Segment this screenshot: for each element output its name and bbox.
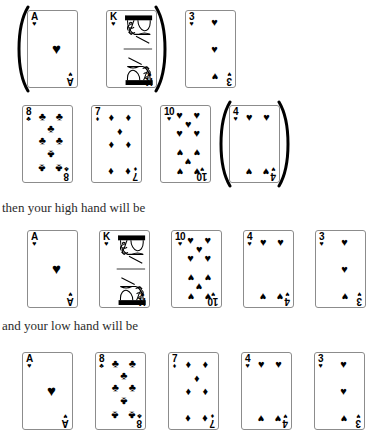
pip-diamonds-icon: ♦: [108, 112, 114, 123]
card-suit-hearts-icon: ♥: [319, 241, 323, 246]
pip-hearts-icon: ♥: [187, 235, 194, 246]
pip-hearts-icon: ♥: [211, 70, 218, 81]
pip-hearts-icon: ♥: [176, 110, 183, 121]
pip-hearts-icon: ♥: [193, 147, 200, 158]
card-pip-field: ♣♣♣♣♣♣♣♣: [35, 109, 68, 179]
card-slot-three-of-hearts[interactable]: 3♥3♥♥♥♥: [315, 230, 366, 308]
pip-hearts-icon: ♥: [340, 386, 347, 397]
pip-diamonds-icon: ♦: [203, 359, 209, 370]
pip-clubs-icon: ♣: [47, 122, 54, 133]
card-slot-eight-of-clubs[interactable]: 8♣8♣♣♣♣♣♣♣♣♣: [95, 352, 146, 430]
playing-card-king-of-hearts[interactable]: K♥K♥: [99, 230, 150, 308]
pip-diamonds-icon: ♦: [203, 386, 209, 397]
card-pip-field: ♥♥♥♥♥♥♥♥♥♥: [184, 234, 217, 304]
playing-card-four-of-hearts[interactable]: 4♥4♥♥♥♥♥: [229, 105, 280, 183]
pip-diamonds-icon: ♦: [185, 359, 191, 370]
pip-hearts-icon: ♥: [204, 290, 211, 301]
playing-card-seven-of-diamonds[interactable]: 7♦7♦♦♦♦♦♦♦♦: [91, 105, 142, 183]
card-index-tl: 3♥: [318, 355, 323, 368]
pip-diamonds-icon: ♦: [185, 386, 191, 397]
playing-card-eight-of-clubs[interactable]: 8♣8♣♣♣♣♣♣♣♣♣: [22, 105, 73, 183]
card-suit-hearts-icon: ♥: [247, 241, 251, 246]
pip-clubs-icon: ♣: [112, 381, 119, 392]
pip-hearts-icon: ♥: [277, 290, 284, 301]
playing-card-ten-of-hearts[interactable]: 10♥10♥♥♥♥♥♥♥♥♥♥♥: [171, 230, 222, 308]
pip-hearts-icon: ♥: [176, 147, 183, 158]
card-suit-hearts-icon: ♥: [104, 241, 108, 246]
caption-low-hand: and your low hand will be: [2, 318, 138, 334]
pip-clubs-icon: ♣: [120, 395, 127, 406]
caption-high-hand: then your high hand will be: [2, 200, 145, 216]
pip-hearts-icon: ♥: [185, 119, 192, 130]
card-slot-four-of-hearts[interactable]: 4♥4♥♥♥♥♥: [243, 230, 294, 308]
card-pip-field: ♥♥♥: [198, 14, 231, 84]
card-slot-four-of-hearts[interactable]: 4♥4♥♥♥♥♥: [229, 105, 280, 183]
pip-diamonds-icon: ♦: [108, 139, 114, 150]
card-slot-ten-of-hearts[interactable]: 10♥10♥♥♥♥♥♥♥♥♥♥♥: [160, 105, 211, 183]
card-suit-diamonds-icon: ♦: [96, 116, 100, 121]
playing-card-ace-of-hearts[interactable]: A♥A♥♥: [27, 230, 78, 308]
pip-clubs-icon: ♣: [39, 134, 46, 145]
pip-diamonds-icon: ♦: [108, 165, 114, 176]
pip-hearts-icon: ♥: [263, 165, 270, 176]
card-index-tl: 8♣: [99, 355, 104, 368]
card-suit-hearts-icon: ♥: [233, 116, 237, 121]
card-slot-three-of-hearts[interactable]: 3♥3♥♥♥♥: [185, 10, 236, 88]
card-slot-four-of-hearts[interactable]: 4♥4♥♥♥♥♥: [241, 352, 292, 430]
card-slot-ace-of-hearts[interactable]: A♥A♥♥: [27, 10, 78, 88]
card-index-tl: 8♣: [26, 108, 31, 121]
card-index-tl: 7♦: [172, 355, 177, 368]
card-index-tl: 3♥: [189, 13, 194, 26]
playing-card-three-of-hearts[interactable]: 3♥3♥♥♥♥: [315, 230, 366, 308]
card-slot-king-of-hearts[interactable]: K♥K♥: [106, 10, 157, 88]
high-hand-row: A♥A♥♥K♥K♥10♥10♥♥♥♥♥♥♥♥♥♥♥4♥4♥♥♥♥♥3♥3♥♥♥♥: [27, 230, 366, 308]
card-slot-seven-of-diamonds[interactable]: 7♦7♦♦♦♦♦♦♦♦: [168, 352, 219, 430]
dealt-hand-row-1: A♥A♥♥K♥K♥3♥3♥♥♥♥: [27, 10, 236, 88]
card-slot-seven-of-diamonds[interactable]: 7♦7♦♦♦♦♦♦♦♦: [91, 105, 142, 183]
card-index-tl: A♥: [31, 13, 38, 26]
card-pip-field: ♥: [35, 356, 68, 426]
playing-card-three-of-hearts[interactable]: 3♥3♥♥♥♥: [314, 352, 365, 430]
playing-card-eight-of-clubs[interactable]: 8♣8♣♣♣♣♣♣♣♣♣: [95, 352, 146, 430]
playing-card-king-of-hearts[interactable]: K♥K♥: [106, 10, 157, 88]
card-slot-ten-of-hearts[interactable]: 10♥10♥♥♥♥♥♥♥♥♥♥♥: [171, 230, 222, 308]
pip-hearts-icon: ♥: [258, 412, 265, 423]
pip-hearts-icon: ♥: [341, 237, 348, 248]
card-slot-ace-of-hearts[interactable]: A♥A♥♥: [22, 352, 73, 430]
playing-card-seven-of-diamonds[interactable]: 7♦7♦♦♦♦♦♦♦♦: [168, 352, 219, 430]
pip-diamonds-icon: ♦: [126, 112, 132, 123]
card-index-tl: A♥: [31, 233, 38, 246]
pip-hearts-icon: ♥: [193, 110, 200, 121]
pip-hearts-icon: ♥: [196, 280, 203, 291]
card-suit-hearts-icon: ♥: [245, 363, 249, 368]
pip-hearts-icon: ♥: [52, 262, 61, 277]
card-index-tl: 4♥: [233, 108, 238, 121]
pip-hearts-icon: ♥: [52, 42, 61, 57]
card-index-tl: K♥: [103, 233, 110, 246]
playing-card-ace-of-hearts[interactable]: A♥A♥♥: [27, 10, 78, 88]
pip-clubs-icon: ♣: [129, 409, 136, 420]
card-suit-hearts-icon: ♥: [318, 363, 322, 368]
card-pip-field: ♥♥♥♥♥♥♥♥♥♥: [173, 109, 206, 179]
playing-card-four-of-hearts[interactable]: 4♥4♥♥♥♥♥: [243, 230, 294, 308]
pip-clubs-icon: ♣: [120, 369, 127, 380]
playing-card-ten-of-hearts[interactable]: 10♥10♥♥♥♥♥♥♥♥♥♥♥: [160, 105, 211, 183]
card-slot-ace-of-hearts[interactable]: A♥A♥♥: [27, 230, 78, 308]
playing-card-four-of-hearts[interactable]: 4♥4♥♥♥♥♥: [241, 352, 292, 430]
card-suit-hearts-icon: ♥: [32, 21, 36, 26]
pip-hearts-icon: ♥: [260, 290, 267, 301]
card-pip-field: ♦♦♦♦♦♦♦: [104, 109, 137, 179]
card-suit-hearts-icon: ♥: [167, 116, 171, 121]
card-suit-clubs-icon: ♣: [26, 116, 31, 121]
playing-card-ace-of-hearts[interactable]: A♥A♥♥: [22, 352, 73, 430]
playing-card-three-of-hearts[interactable]: 3♥3♥♥♥♥: [185, 10, 236, 88]
card-index-tl: 4♥: [245, 355, 250, 368]
pip-diamonds-icon: ♦: [126, 139, 132, 150]
card-slot-king-of-hearts[interactable]: K♥K♥: [99, 230, 150, 308]
card-pip-field: ♥♥♥: [327, 356, 360, 426]
pip-clubs-icon: ♣: [39, 111, 46, 122]
card-slot-eight-of-clubs[interactable]: 8♣8♣♣♣♣♣♣♣♣♣: [22, 105, 73, 183]
card-index-tl: 3♥: [319, 233, 324, 246]
card-slot-three-of-hearts[interactable]: 3♥3♥♥♥♥: [314, 352, 365, 430]
pip-hearts-icon: ♥: [204, 235, 211, 246]
